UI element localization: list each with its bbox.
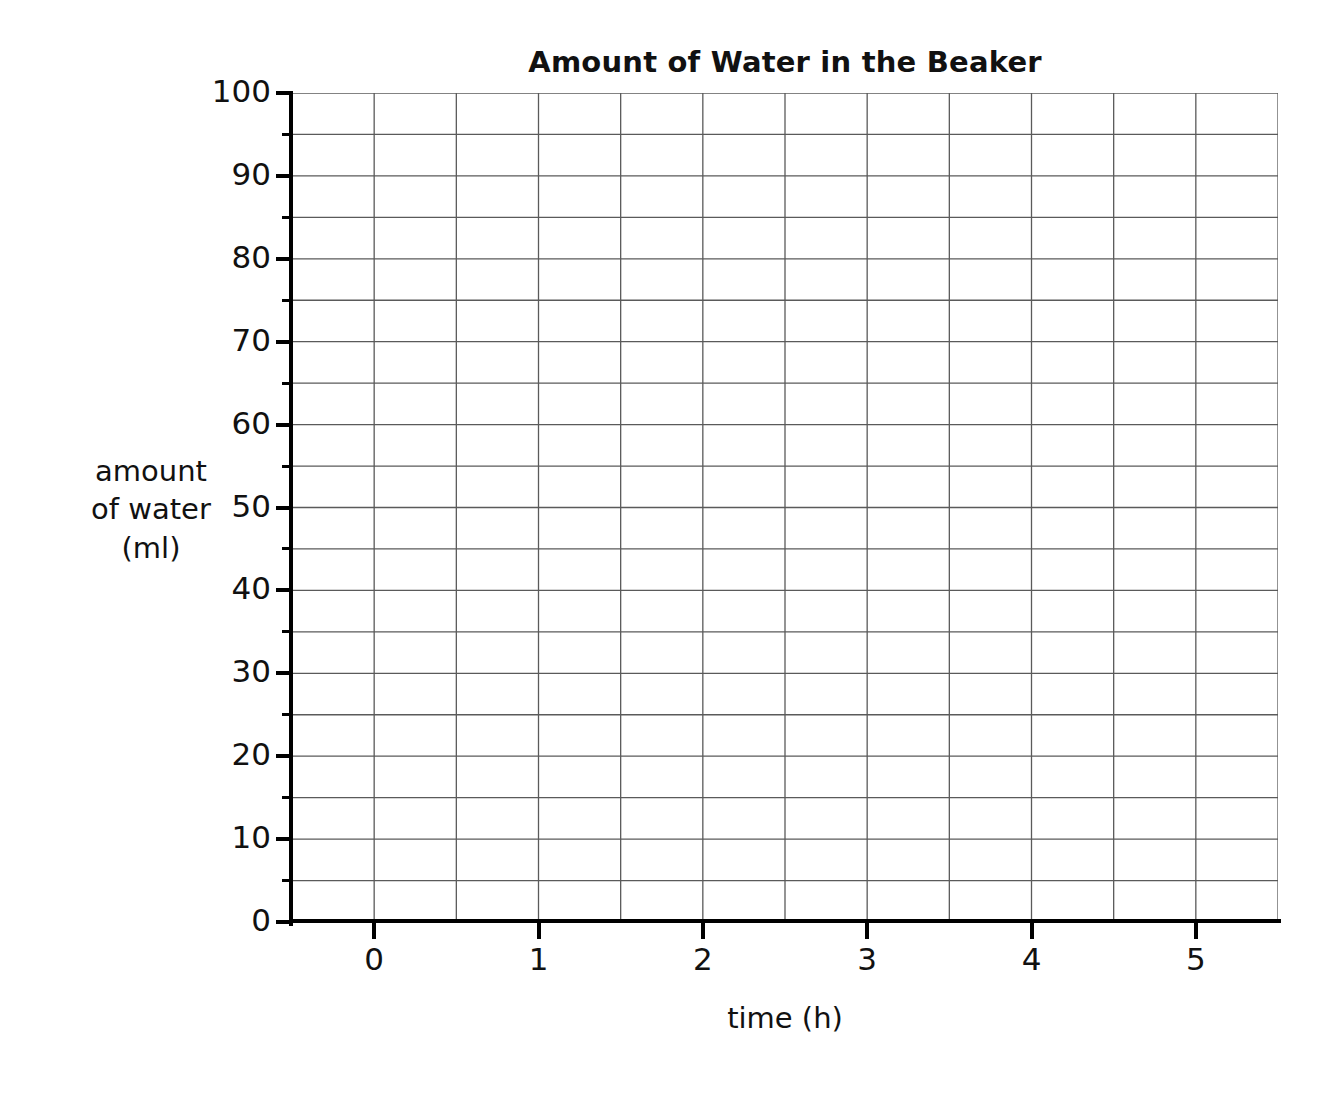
x-tick-major xyxy=(1194,919,1198,939)
y-tick-minor xyxy=(282,382,293,385)
x-tick-label: 4 xyxy=(1002,944,1062,975)
x-axis-title: time (h) xyxy=(292,1004,1278,1033)
y-tick-minor xyxy=(282,796,293,799)
y-tick-minor xyxy=(282,547,293,550)
y-tick-minor xyxy=(282,465,293,468)
y-tick-label: 80 xyxy=(232,242,271,273)
y-axis-title-line-2: of water xyxy=(40,490,262,528)
y-tick-major xyxy=(276,340,293,344)
x-tick-label: 0 xyxy=(344,944,404,975)
x-tick-major xyxy=(1030,919,1034,939)
y-tick-label: 30 xyxy=(232,656,271,687)
y-tick-major xyxy=(276,754,293,758)
y-tick-major xyxy=(276,423,293,427)
x-tick-label: 1 xyxy=(509,944,569,975)
y-tick-minor xyxy=(282,879,293,882)
y-tick-minor xyxy=(282,299,293,302)
y-tick-major xyxy=(276,588,293,592)
y-tick-label: 0 xyxy=(251,905,271,936)
y-tick-label: 10 xyxy=(232,822,271,853)
y-axis-title-line-3: (ml) xyxy=(40,529,262,567)
y-tick-label: 60 xyxy=(232,408,271,439)
y-tick-major xyxy=(276,920,293,924)
y-tick-label: 50 xyxy=(232,491,271,522)
x-tick-major xyxy=(865,919,869,939)
x-tick-label: 3 xyxy=(837,944,897,975)
chart-figure: Amount of Water in the Beaker amount of … xyxy=(0,0,1324,1096)
y-tick-label: 40 xyxy=(232,573,271,604)
y-tick-major xyxy=(276,671,293,675)
y-tick-minor xyxy=(282,133,293,136)
y-tick-minor xyxy=(282,630,293,633)
plot-area xyxy=(292,93,1278,922)
y-tick-label: 20 xyxy=(232,739,271,770)
y-axis-title: amount of water (ml) xyxy=(40,452,262,567)
y-tick-label: 100 xyxy=(212,76,271,107)
y-axis-title-line-1: amount xyxy=(40,452,262,490)
x-axis-line xyxy=(289,919,1281,923)
y-tick-major xyxy=(276,174,293,178)
y-tick-major xyxy=(276,91,293,95)
y-tick-label: 90 xyxy=(232,159,271,190)
x-tick-label: 5 xyxy=(1166,944,1226,975)
y-tick-minor xyxy=(282,216,293,219)
x-tick-label: 2 xyxy=(673,944,733,975)
chart-title: Amount of Water in the Beaker xyxy=(292,48,1278,77)
x-tick-major xyxy=(537,919,541,939)
y-tick-major xyxy=(276,257,293,261)
y-tick-minor xyxy=(282,713,293,716)
y-tick-major xyxy=(276,837,293,841)
y-tick-label: 70 xyxy=(232,325,271,356)
x-tick-major xyxy=(372,919,376,939)
grid-lines xyxy=(292,93,1278,922)
x-tick-major xyxy=(701,919,705,939)
y-tick-major xyxy=(276,506,293,510)
